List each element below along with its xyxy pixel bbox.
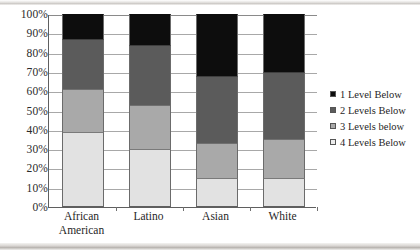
bar-african-american (62, 14, 104, 207)
legend-swatch-icon (330, 107, 336, 113)
bar-segment (196, 14, 238, 76)
y-axis-tick-label: 80% (2, 48, 48, 59)
x-axis-label-line: American (39, 224, 125, 238)
legend-label: 1 Level Below (340, 89, 402, 100)
legend-label: 4 Levels Below (340, 137, 406, 148)
x-axis-labels: AfricanAmericanLatinoAsianWhite (48, 210, 316, 248)
plot-area (48, 15, 316, 208)
bar-segment (129, 14, 171, 45)
bar-segment (263, 139, 305, 178)
y-axis-tick-label: 40% (2, 125, 48, 136)
bar-segment (129, 105, 171, 149)
bar-segment (62, 132, 104, 207)
bar-segment (263, 14, 305, 72)
legend-label: 2 Levels Below (340, 105, 406, 116)
bar-segment (129, 149, 171, 207)
bar-segment (62, 39, 104, 89)
bar-segment (129, 45, 171, 105)
bar-segment (62, 89, 104, 131)
legend-item: 4 Levels Below (330, 134, 418, 150)
bar-segment (196, 76, 238, 144)
legend-swatch-icon (330, 139, 336, 145)
legend-swatch-icon (330, 91, 336, 97)
bar-asian (196, 14, 238, 207)
legend-item: 1 Level Below (330, 86, 418, 102)
y-axis-tick-label: 20% (2, 163, 48, 174)
y-axis-tick-label: 90% (2, 28, 48, 39)
x-axis-label-line: White (240, 210, 326, 224)
x-axis-label-white: White (240, 210, 326, 224)
legend-item: 2 Levels Below (330, 102, 418, 118)
bar-segment (263, 72, 305, 140)
y-axis-tick-label: 50% (2, 106, 48, 117)
y-axis-tick-label: 70% (2, 67, 48, 78)
legend-label: 3 Levels below (340, 121, 404, 132)
bar-latino (129, 14, 171, 207)
bar-segment (62, 14, 104, 39)
y-axis-tick-label: 60% (2, 86, 48, 97)
bar-segment (196, 143, 238, 178)
y-axis-tick-label: 100% (2, 9, 48, 20)
bar-segment (196, 178, 238, 207)
y-axis-tick-label: 30% (2, 144, 48, 155)
chart-legend: 1 Level Below2 Levels Below3 Levels belo… (330, 86, 418, 150)
stacked-bar-chart: 0%10%20%30%40%50%60%70%80%90%100% Africa… (0, 0, 420, 250)
bar-white (263, 14, 305, 207)
y-axis-tick-label: 10% (2, 183, 48, 194)
legend-item: 3 Levels below (330, 118, 418, 134)
bar-segment (263, 178, 305, 207)
legend-swatch-icon (330, 123, 336, 129)
